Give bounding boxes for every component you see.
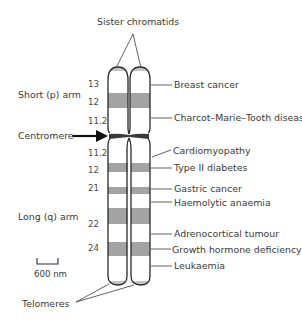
band-label-p12: 12 xyxy=(88,98,99,107)
band-label-q21: 21 xyxy=(88,184,99,193)
long-arm-label: Long (q) arm xyxy=(18,212,78,221)
band-label-p13: 13 xyxy=(88,80,99,89)
disease-label-gastric-cancer: Gastric cancer xyxy=(174,184,242,193)
scale-bar xyxy=(37,258,58,264)
band-label-q22: 22 xyxy=(88,220,99,229)
disease-label-adrenocortical-tumour: Adrenocortical tumour xyxy=(174,229,279,238)
sister-chromatid-leader-lines xyxy=(116,34,141,68)
disease-label-growth-hormone-deficiency: Growth hormone deficiency xyxy=(172,245,302,254)
p-arm-bands xyxy=(108,93,150,108)
sister-chromatids-label: Sister chromatids xyxy=(97,17,179,26)
scale-bar-label: 600 nm xyxy=(34,270,67,279)
disease-label-type-ii-diabetes: Type II diabetes xyxy=(174,163,247,172)
band-label-p11-2: 11.2 xyxy=(88,117,107,126)
disease-label-charcot-marie-tooth: Charcot–Marie–Tooth disease xyxy=(174,113,302,122)
chromosome-diagram: Sister chromatids Short (p) arm Centrome… xyxy=(0,0,302,321)
disease-label-haemolytic-anaemia: Haemolytic anaemia xyxy=(174,198,271,207)
telomere-leader-lines xyxy=(76,284,134,302)
band-label-q11-2: 11.2 xyxy=(88,149,107,158)
disease-label-cardiomyopathy: Cardiomyopathy xyxy=(173,146,251,155)
band-label-q12: 12 xyxy=(88,166,99,175)
telomeres-label: Telomeres xyxy=(22,299,69,308)
band-label-q24: 24 xyxy=(88,244,99,253)
short-arm-label: Short (p) arm xyxy=(18,90,81,99)
centromere-label: Centromere xyxy=(18,131,74,140)
disease-leader-lines xyxy=(151,85,172,266)
disease-label-breast-cancer: Breast cancer xyxy=(174,80,239,89)
centromere-arrow xyxy=(72,130,108,142)
q-arm-bands xyxy=(108,163,151,256)
disease-label-leukaemia: Leukaemia xyxy=(174,261,225,270)
